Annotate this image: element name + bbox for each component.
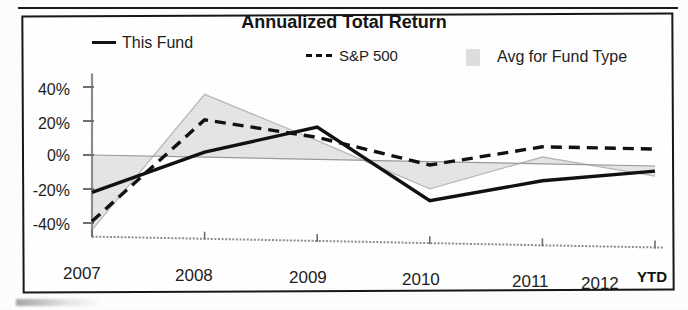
y-tick-label-40: 40% [38,81,70,99]
legend-label-avg-for-fund-type: Avg for Fund Type [497,48,627,66]
chart-title: Annualized Total Return [0,12,688,33]
legend-swatch-this-fund [92,41,116,44]
legend-label-sp-500: S&P 500 [339,47,398,64]
y-tick-0: 0% [12,147,70,165]
scanned-page: Annualized Total Return This Fund S&P 50… [0,0,688,310]
y-tick-label-neg20: -20% [33,182,70,200]
x-tick-label-2011: 2011 [512,272,549,292]
y-tick-neg40: -40% [12,216,70,234]
y-tick-neg20: -20% [12,182,70,200]
legend-swatch-sp-500 [306,54,332,57]
x-tick-label-2008: 2008 [175,266,213,286]
y-tick-label-20: 20% [38,115,70,133]
y-tick-20: 20% [12,115,70,133]
scan-smudge [16,299,102,306]
legend-label-this-fund: This Fund [122,34,193,52]
y-tick-label-neg40: -40% [33,216,70,234]
y-tick-label-0: 0% [47,147,70,165]
x-tick-label-2007: 2007 [63,264,101,284]
adjacent-panel-edge [18,0,678,9]
x-tick-label-2010: 2010 [402,270,440,290]
x-tick-label-2009: 2009 [289,268,327,288]
x-axis-ytd-label: YTD [637,268,667,285]
legend-swatch-avg-for-fund-type [466,49,480,66]
x-tick-label-2012: 2012 [581,274,619,294]
y-tick-40: 40% [12,81,70,99]
